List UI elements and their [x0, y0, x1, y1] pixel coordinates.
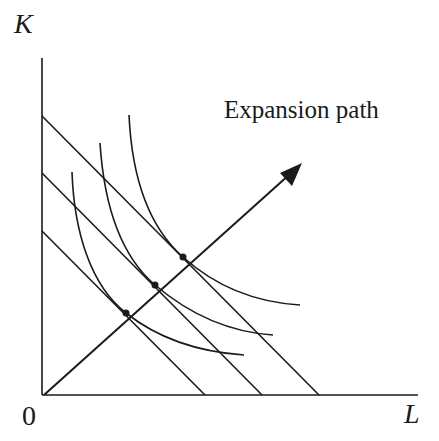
tangency-point-2	[152, 282, 159, 289]
origin-label: 0	[22, 400, 36, 432]
isoquant-3	[129, 115, 300, 305]
arrow-head-icon	[280, 163, 302, 186]
y-axis-label: K	[14, 8, 33, 40]
tangency-point-1	[123, 310, 130, 317]
expansion-path-diagram	[0, 0, 439, 441]
isoquant-2	[100, 143, 273, 335]
expansion-path-label: Expansion path	[224, 96, 379, 124]
isoquant-1	[72, 172, 244, 355]
x-axis-label: L	[404, 398, 420, 430]
tangency-point-3	[180, 254, 187, 261]
expansion-path-line	[44, 174, 290, 395]
